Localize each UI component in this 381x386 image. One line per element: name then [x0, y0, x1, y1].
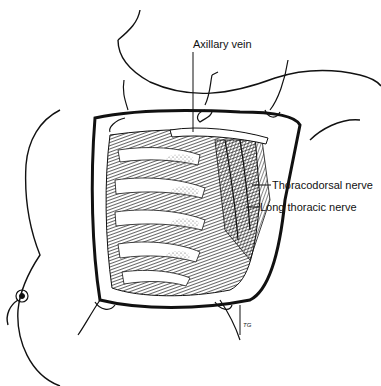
anatomical-illustration: Axillary vein Thoracodorsal nerve Long t… [0, 0, 381, 386]
label-long-thoracic-nerve: Long thoracic nerve [260, 201, 357, 213]
artist-signature: TG [243, 322, 251, 328]
illustration-drawing [0, 0, 381, 386]
label-thoracodorsal-nerve: Thoracodorsal nerve [272, 179, 373, 191]
upper-retractor [270, 60, 288, 110]
label-axillary-vein: Axillary vein [193, 38, 252, 50]
